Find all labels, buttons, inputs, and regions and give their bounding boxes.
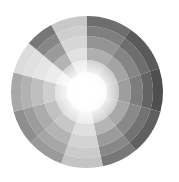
sector-ring-segment (31, 78, 44, 107)
sector-ring-segment (117, 78, 131, 103)
center-highlight (55, 60, 119, 124)
polar-chart-container (0, 0, 179, 182)
chart-core-highlight (55, 60, 119, 124)
polar-area-chart (0, 0, 179, 182)
sector-ring-segment (43, 81, 56, 104)
sector-ring-segment (72, 122, 96, 136)
